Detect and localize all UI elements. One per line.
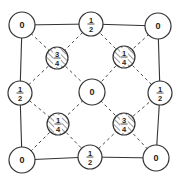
- fraction-numerator: 3: [122, 116, 126, 125]
- height-label: 0: [153, 153, 158, 163]
- atom-corner-bl: 0: [9, 147, 35, 173]
- fraction-numerator: 3: [55, 50, 59, 59]
- height-label: 0: [155, 21, 160, 31]
- atom-edge-left: 12: [8, 81, 32, 105]
- atom-edge-top: 12: [79, 12, 103, 36]
- atom-corner-tl: 0: [9, 12, 35, 38]
- fraction-numerator: 1: [18, 85, 22, 94]
- atom-edge-bottom: 12: [78, 145, 102, 169]
- atom-inner-tl: 34: [46, 47, 68, 69]
- atom-edge-right: 12: [148, 81, 172, 105]
- fraction-denominator: 2: [158, 94, 162, 103]
- fraction-numerator: 1: [89, 16, 93, 25]
- atom-inner-br: 34: [113, 113, 135, 135]
- atom-corner-br: 0: [143, 145, 169, 171]
- height-label: 0: [19, 20, 24, 30]
- atom-corner-tr: 0: [145, 13, 171, 39]
- height-label: 0: [89, 87, 94, 97]
- fraction-numerator: 1: [122, 49, 126, 58]
- atom-center: 0: [79, 79, 105, 105]
- atom-inner-bl: 14: [47, 113, 69, 135]
- unit-cell-diagram: 000012121212034141434: [0, 0, 182, 180]
- fraction-numerator: 1: [88, 149, 92, 158]
- height-label: 0: [19, 155, 24, 165]
- fraction-denominator: 2: [18, 94, 22, 103]
- fraction-denominator: 2: [89, 25, 93, 34]
- fraction-denominator: 2: [88, 158, 92, 167]
- fraction-numerator: 1: [56, 116, 60, 125]
- fraction-numerator: 1: [158, 85, 162, 94]
- atom-inner-tr: 14: [113, 46, 135, 68]
